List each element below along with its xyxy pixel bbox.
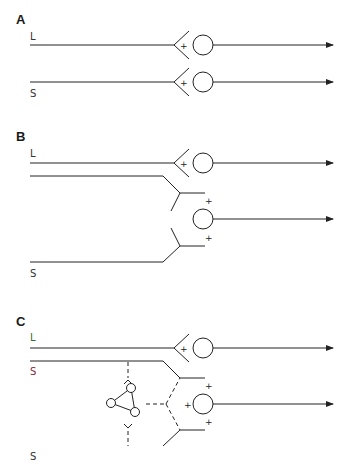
plus-sign: + xyxy=(180,344,188,354)
plus-sign: + xyxy=(205,381,213,391)
plus-sign: + xyxy=(180,159,188,169)
interneuron-node-icon xyxy=(107,399,116,408)
synapse-signs: + + + + + + + + + xyxy=(180,41,213,427)
interneuron-node-icon xyxy=(127,384,136,393)
chevron-down-icon xyxy=(124,424,132,428)
plus-sign: + xyxy=(180,78,188,88)
neuron-icon xyxy=(193,338,213,358)
plus-sign: + xyxy=(180,41,188,51)
panel-c-s-pathway xyxy=(30,361,333,446)
plus-sign: + xyxy=(205,196,213,206)
neuron-icon xyxy=(193,394,213,414)
neuron-icon xyxy=(193,35,213,55)
panel-b-s-pathway xyxy=(30,176,333,262)
plus-sign: + xyxy=(205,233,213,243)
neuron-icon xyxy=(193,209,213,229)
neuron-icon xyxy=(193,153,213,173)
plus-sign: + xyxy=(205,417,213,427)
interneuron-node-icon xyxy=(131,408,140,417)
interneuron-triangle xyxy=(107,384,140,417)
circuit-diagram: + + + + + + + + + xyxy=(0,0,346,464)
interneuron-network xyxy=(128,362,180,446)
neuron-icon xyxy=(193,72,213,92)
plus-sign: + xyxy=(184,400,192,410)
